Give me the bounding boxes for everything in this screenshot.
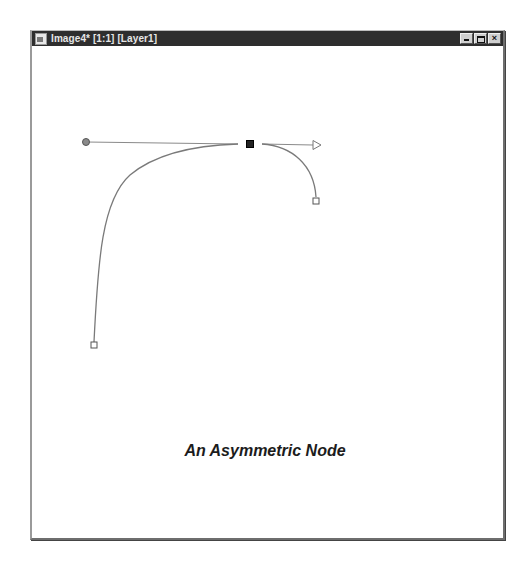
left-handle-circle-icon[interactable] — [83, 139, 90, 146]
left-endpoint-node-icon[interactable] — [91, 342, 97, 348]
anchor-node-square-icon[interactable] — [247, 141, 254, 148]
figure-caption: An Asymmetric Node — [0, 442, 530, 460]
right-handle-arrow-icon[interactable] — [313, 141, 321, 150]
left-curve-segment[interactable] — [94, 144, 238, 342]
right-endpoint-node-icon[interactable] — [313, 198, 319, 204]
left-control-handle-line — [86, 142, 238, 144]
bezier-path-artwork — [0, 0, 530, 567]
right-curve-segment[interactable] — [262, 144, 316, 197]
